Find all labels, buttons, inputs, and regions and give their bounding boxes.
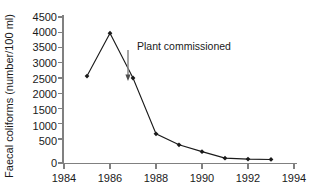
data-point-marker	[223, 156, 228, 161]
x-tick-label: 1986	[98, 172, 122, 184]
data-point-marker	[177, 142, 182, 147]
y-tick-label: 500	[39, 135, 57, 147]
faecal-coliforms-line-chart: Faecal coliforms (number/100 ml) 4500 40…	[0, 0, 314, 190]
x-tick-label: 1992	[236, 172, 260, 184]
annotation-arrow-head	[125, 75, 130, 82]
y-tick-labels: 4500 4000 3500 3000 2500 2000 1500 1000 …	[33, 11, 57, 169]
y-tick-label: 4500	[33, 11, 57, 23]
data-point-marker	[108, 31, 113, 36]
x-tick-marks	[64, 164, 294, 169]
y-tick-label: 2000	[33, 88, 57, 100]
y-tick-label: 2500	[33, 73, 57, 85]
x-tick-label: 1988	[144, 172, 168, 184]
x-tick-label: 1984	[52, 172, 76, 184]
data-point-marker	[246, 157, 251, 162]
y-tick-label: 0	[51, 157, 57, 169]
y-tick-label: 1000	[33, 120, 57, 132]
data-point-marker	[269, 157, 274, 162]
data-point-marker	[131, 76, 136, 81]
chart-figure: Faecal coliforms (number/100 ml) 4500 40…	[0, 0, 314, 190]
data-point-marker	[200, 149, 205, 154]
x-tick-label: 1990	[190, 172, 214, 184]
y-tick-label: 3000	[33, 57, 57, 69]
x-tick-labels: 1984 1986 1988 1990 1992 1994	[52, 172, 306, 184]
plant-commissioned-annotation: Plant commissioned	[125, 40, 231, 81]
series-line-faecal-coliforms	[87, 33, 271, 159]
y-tick-label: 4000	[33, 26, 57, 38]
y-tick-label: 1500	[33, 104, 57, 116]
y-axis-title: Faecal coliforms (number/100 ml)	[3, 14, 15, 178]
data-point-marker	[154, 131, 159, 136]
annotation-label: Plant commissioned	[137, 40, 231, 52]
y-tick-label: 3500	[33, 41, 57, 53]
x-tick-label: 1994	[282, 172, 306, 184]
data-point-marker	[85, 74, 90, 79]
